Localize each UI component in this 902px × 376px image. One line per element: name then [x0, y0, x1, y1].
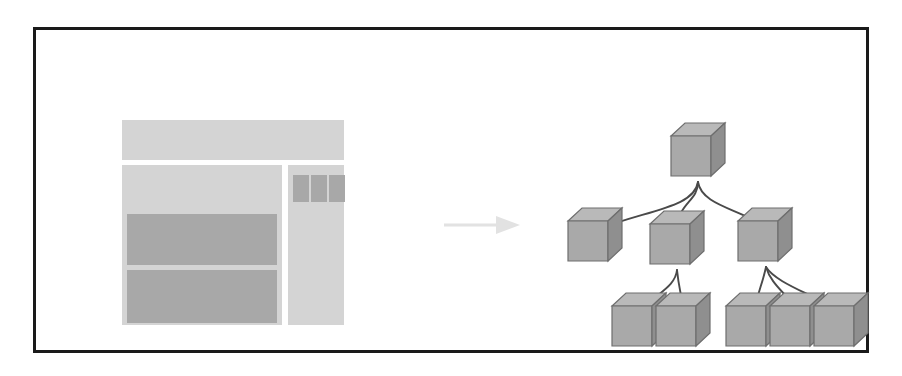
wireframe-hero-region	[122, 165, 282, 210]
wireframe-content-block-secondary	[127, 270, 277, 323]
transform-arrow-icon	[444, 212, 520, 238]
tree-node-level2-5[interactable]	[810, 290, 872, 352]
tree-node-level1-3[interactable]	[734, 205, 796, 267]
wireframe-header-banner	[122, 120, 344, 160]
hierarchical-block-tree	[526, 90, 886, 350]
tree-node-level1-1[interactable]	[564, 205, 626, 267]
tree-node-level2-2[interactable]	[652, 290, 714, 352]
wireframe-sidebar-tile-1	[293, 175, 309, 202]
figure-root	[0, 0, 902, 376]
arrow-head	[496, 216, 520, 234]
tree-node-level1-2[interactable]	[646, 208, 708, 270]
figure-border	[33, 27, 869, 353]
webpage-wireframe	[122, 120, 344, 325]
tree-node-root[interactable]	[667, 120, 729, 182]
wireframe-content-block-primary	[127, 214, 277, 265]
wireframe-sidebar-tile-2	[311, 175, 327, 202]
wireframe-sidebar-tile-3	[329, 175, 345, 202]
